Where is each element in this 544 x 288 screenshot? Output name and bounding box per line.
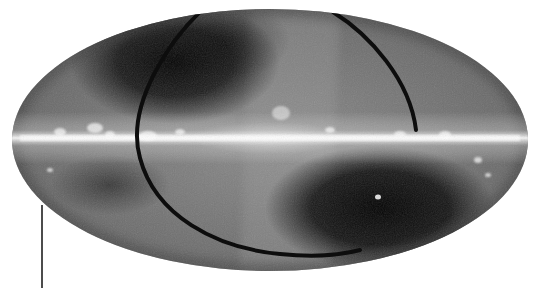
all-sky-map (0, 0, 544, 288)
sky-ellipse (0, 0, 544, 288)
